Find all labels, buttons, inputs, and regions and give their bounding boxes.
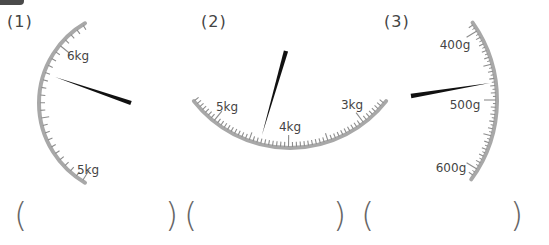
gauge-2-tick — [273, 141, 274, 146]
gauge-2-tick — [325, 133, 328, 141]
gauge-2-tick — [377, 103, 381, 106]
gauge-2-label-5kg: 5kg — [216, 100, 238, 114]
gauge-2-tick — [245, 134, 247, 139]
gauge-3-tick-fine — [491, 75, 494, 76]
answer-1-field[interactable] — [32, 203, 160, 237]
gauge-1-needle — [55, 77, 132, 105]
gauge-2-tick — [257, 138, 258, 143]
gauge-2-tick — [205, 109, 208, 113]
gauge-2-tick — [357, 121, 360, 125]
gauge-3-tick — [479, 44, 484, 46]
gauge-1-tick — [48, 65, 53, 67]
answer-1-close: ) — [165, 198, 178, 232]
gauge-3-tick-fine — [476, 164, 479, 165]
answer-3-close: ) — [510, 198, 523, 232]
gauge-3-tick — [469, 172, 473, 175]
gauge-2-tick — [341, 130, 343, 134]
gauge-2-tick — [363, 116, 366, 120]
gauge-2-tick — [308, 141, 309, 146]
gauge-2-tick — [319, 138, 320, 143]
gauge-3-tick-fine — [472, 170, 475, 172]
gauge-3-tick — [488, 128, 493, 129]
gauge-1-tick — [45, 72, 50, 74]
gauge-2-tick — [221, 121, 224, 125]
gauge-1-tick — [45, 131, 50, 133]
gauge-2-tick — [195, 97, 199, 100]
gauge-3-tick — [467, 31, 477, 37]
gauge-2-tick — [351, 125, 354, 129]
gauge-3-tick-fine — [491, 125, 494, 126]
gauge-1-tick — [51, 145, 55, 147]
gauge-2-tick — [347, 127, 349, 131]
answer-2-field[interactable] — [202, 203, 328, 237]
gauge-2-label-3kg: 3kg — [341, 98, 363, 112]
gauge-3-tick — [483, 64, 491, 66]
gauge-2-tick — [369, 111, 372, 115]
gauge-1-tick — [55, 151, 59, 154]
gauge-1-tick — [65, 40, 69, 43]
gauge-2-tick — [218, 119, 221, 123]
gauge-2-tick — [337, 132, 339, 137]
gauge-1-tick — [77, 30, 80, 34]
gauge-3-tick — [490, 86, 495, 87]
gauge-1-tick — [83, 25, 86, 29]
gauge-3-tick-fine — [489, 68, 492, 69]
gauge-3-label-400g: 400g — [440, 38, 471, 52]
gauge-3-tick — [467, 163, 477, 169]
gauge-3-tick — [484, 57, 489, 59]
gauge-3-tick — [488, 71, 493, 72]
gauge-3-tick-fine — [489, 132, 492, 133]
gauge-2-tick — [253, 136, 255, 141]
gauge-2-tick — [334, 133, 336, 138]
gauge-2-tick — [231, 127, 233, 131]
gauge-1-tick — [43, 124, 48, 125]
gauge-3-needle — [411, 83, 490, 98]
gauge-2-tick — [200, 103, 204, 106]
gauge-2-tick — [242, 132, 244, 137]
gauge-2-tick — [380, 100, 384, 103]
gauge-2-tick — [375, 105, 379, 108]
gauge-2-tick — [197, 100, 201, 103]
gauge-2-tick — [372, 108, 376, 112]
gauge-3-tick — [476, 37, 480, 39]
gauge-1-tick — [56, 52, 60, 55]
gauge-2-tick — [211, 114, 214, 118]
answer-3-field[interactable] — [379, 203, 505, 237]
gauge-2-tick — [203, 106, 207, 109]
gauge-2-tick — [208, 112, 211, 116]
gauge-3-tick — [490, 114, 495, 115]
gauge-2-tick — [249, 132, 252, 140]
gauge-1-tick — [65, 162, 69, 165]
gauge-3-tick-fine — [476, 34, 479, 35]
gauge-2-tick — [323, 137, 324, 142]
gauge-2-tick — [277, 141, 278, 146]
gauge-2-tick — [304, 141, 305, 146]
gauge-3-label-600g: 600g — [436, 161, 467, 175]
gauge-2-tick — [344, 129, 346, 133]
gauge-3-tick — [476, 160, 480, 162]
answer-2-close: ) — [333, 198, 346, 232]
gauge-2-tick — [261, 139, 262, 144]
gauge-2-tick — [235, 129, 237, 133]
gauge-1-tick — [60, 157, 64, 160]
gauge-1-tick — [48, 138, 53, 140]
gauge-1-tick — [41, 117, 49, 118]
gauge-2-tick — [238, 131, 240, 136]
answer-2-open: ( — [184, 198, 197, 232]
gauge-1-label-5kg: 5kg — [77, 163, 99, 177]
gauge-3-tick — [469, 25, 473, 28]
gauge-1-label-6kg: 6kg — [67, 49, 89, 63]
gauge-1-tick — [70, 167, 73, 171]
gauge-2-tick — [366, 113, 369, 117]
gauge-2-tick — [354, 123, 357, 127]
gauge-3-label-500g: 500g — [450, 98, 481, 112]
gauge-1-tick — [43, 80, 48, 81]
answer-3-open: ( — [361, 198, 374, 232]
answer-1-open: ( — [14, 198, 27, 232]
gauge-1-tick — [71, 35, 74, 39]
gauge-3-tick — [484, 141, 489, 143]
gauge-2-label-4kg: 4kg — [279, 120, 301, 134]
gauge-3-tick — [482, 148, 487, 150]
gauge-1-tick — [52, 58, 56, 60]
gauge-3-tick-fine — [472, 28, 475, 30]
